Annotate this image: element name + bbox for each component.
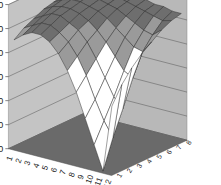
- series-tick-label: 6: [165, 148, 173, 155]
- series-tick-label: 1: [115, 172, 123, 179]
- y-tick-label: 60: [0, 0, 3, 10]
- series-tick-label: 5: [155, 153, 163, 160]
- y-tick-label: 0: [0, 144, 3, 154]
- series-tick-label: 2: [125, 167, 133, 174]
- y-tick-label: 50: [0, 24, 3, 34]
- y-tick-label: 10: [0, 120, 3, 130]
- surface-chart: 0102030405060 123456789101112 12345678: [0, 0, 221, 185]
- series-tick-label: 8: [185, 139, 193, 146]
- series-tick-label: 7: [175, 144, 183, 151]
- series-tick-label: 3: [135, 162, 143, 169]
- x-tick-label: 12: [102, 178, 114, 185]
- y-tick-label: 30: [0, 72, 3, 82]
- y-axis: 0102030405060: [0, 0, 8, 154]
- y-tick-label: 40: [0, 48, 3, 58]
- y-tick-label: 20: [0, 96, 3, 106]
- series-tick-label: 4: [145, 158, 153, 165]
